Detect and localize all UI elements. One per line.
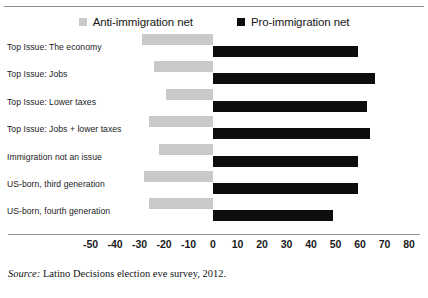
x-tick-label: 70	[379, 238, 391, 250]
source-caption: Source: Latino Decisions election eve su…	[8, 268, 226, 279]
x-tick-label: 10	[232, 238, 244, 250]
chart-legend: Anti-immigration net Pro-immigration net	[0, 14, 428, 30]
source-text: Latino Decisions election eve survey, 20…	[40, 268, 226, 279]
x-tick-label: -30	[132, 238, 147, 250]
legend-item-anti-immigration: Anti-immigration net	[79, 16, 193, 28]
bar-pro-immigration	[213, 73, 375, 84]
x-tick-label: 80	[403, 238, 415, 250]
category-label: Top Issue: Lower taxes	[7, 97, 96, 107]
x-axis-line	[8, 234, 420, 235]
bar-pro-immigration	[213, 183, 358, 194]
bar-anti-immigration	[149, 198, 213, 209]
x-tick-label: -40	[107, 238, 122, 250]
category-label: US-born, fourth generation	[7, 206, 110, 216]
chart-figure: Anti-immigration net Pro-immigration net…	[0, 0, 428, 298]
category-label: Immigration not an issue	[7, 152, 102, 162]
bar-anti-immigration	[154, 61, 213, 72]
bar-anti-immigration	[166, 89, 213, 100]
legend-label-anti-immigration: Anti-immigration net	[93, 16, 193, 28]
category-label: Top Issue: Jobs	[7, 69, 67, 79]
category-label: Top Issue: Jobs + lower taxes	[7, 124, 121, 134]
source-prefix: Source:	[8, 268, 40, 279]
legend-label-pro-immigration: Pro-immigration net	[251, 16, 349, 28]
x-tick-label: -20	[156, 238, 171, 250]
legend-item-pro-immigration: Pro-immigration net	[237, 16, 349, 28]
bar-anti-immigration	[159, 144, 213, 155]
x-tick-label: 60	[354, 238, 366, 250]
bar-anti-immigration	[142, 34, 213, 45]
legend-swatch-pro-immigration	[237, 18, 245, 26]
x-tick-label: 50	[330, 238, 342, 250]
category-label: Top Issue: The economy	[7, 42, 102, 52]
x-axis-tick-labels: -50-40-30-20-1001020304050607080	[0, 238, 428, 254]
x-tick-label: 40	[305, 238, 317, 250]
plot-area: Top Issue: The economyTop Issue: JobsTop…	[0, 32, 428, 237]
x-tick-label: 30	[281, 238, 293, 250]
bar-pro-immigration	[213, 128, 370, 139]
x-tick-label: 0	[210, 238, 216, 250]
bar-pro-immigration	[213, 101, 367, 112]
x-tick-label: 20	[256, 238, 268, 250]
category-label: US-born, third generation	[7, 179, 105, 189]
bar-anti-immigration	[149, 116, 213, 127]
bar-pro-immigration	[213, 210, 333, 221]
bar-anti-immigration	[144, 171, 213, 182]
bar-pro-immigration	[213, 46, 358, 57]
x-tick-label: -50	[83, 238, 98, 250]
bar-pro-immigration	[213, 156, 358, 167]
legend-swatch-anti-immigration	[79, 18, 87, 26]
top-divider	[4, 6, 424, 7]
x-tick-label: -10	[181, 238, 196, 250]
